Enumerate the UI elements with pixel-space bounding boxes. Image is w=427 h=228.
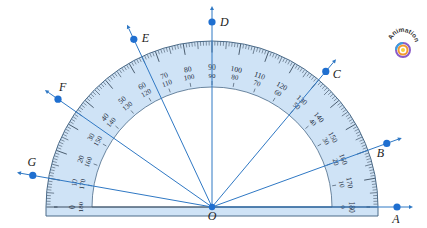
svg-text:Animation: Animation: [386, 26, 421, 43]
animation-badge-label: Animation: [386, 26, 421, 43]
protractor-diagram: 0102030405060708090100110120130140150160…: [0, 0, 427, 228]
animation-badge[interactable]: Animation: [383, 22, 423, 62]
point-b: [383, 140, 390, 147]
point-label-b: B: [377, 146, 385, 160]
point-d: [208, 18, 215, 25]
point-label-g: G: [27, 155, 36, 169]
inner-scale-label: 180: [77, 201, 85, 212]
point-g: [29, 172, 36, 179]
point-label-c: C: [333, 67, 342, 81]
arrowhead-icon: [45, 90, 49, 94]
arrowhead-icon: [17, 171, 21, 175]
point-e: [130, 36, 137, 43]
arrowhead-icon: [409, 205, 413, 209]
outer-scale-label: 0: [68, 205, 77, 209]
point-label-a: A: [391, 212, 400, 226]
point-label-f: F: [58, 80, 67, 94]
point-a: [393, 203, 400, 210]
animation-spiral-icon: Animation: [383, 22, 423, 62]
point-f: [54, 96, 61, 103]
vertex-label: O: [208, 209, 217, 223]
point-label-e: E: [141, 31, 150, 45]
point-label-d: D: [219, 15, 229, 29]
arrowhead-icon: [210, 6, 214, 10]
point-c: [322, 68, 329, 75]
